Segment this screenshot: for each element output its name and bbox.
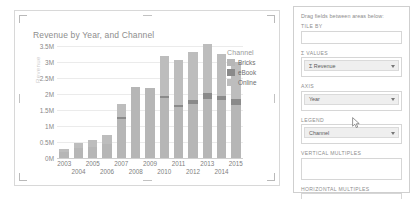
chart-legend: Channel BrickseBookOnline: [227, 49, 271, 89]
bar-segment-online[interactable]: [117, 104, 126, 117]
field-pill[interactable]: Year: [304, 94, 399, 105]
field-well-label: TILE BY: [301, 23, 402, 29]
chevron-down-icon[interactable]: [391, 132, 395, 135]
x-axis-tick-label: 2013: [200, 160, 214, 167]
resize-handle-top-right[interactable]: [267, 15, 275, 23]
bar-segment-bricks[interactable]: [217, 100, 226, 158]
x-axis-tick-labels: 2003200420052006200720082009201020112012…: [57, 159, 243, 181]
x-axis-tick-label: 2005: [86, 160, 100, 167]
bar-segment-bricks[interactable]: [188, 104, 197, 158]
y-axis-tick-label: 3.5M: [40, 43, 54, 50]
legend-item-label: eBook: [238, 69, 256, 76]
y-axis-tick-label: 2M: [45, 91, 54, 98]
bar-segment-bricks[interactable]: [160, 98, 169, 158]
bar-segment-online[interactable]: [217, 54, 226, 96]
bar-segment-bricks[interactable]: [74, 148, 83, 158]
bar-segment-online[interactable]: [88, 140, 97, 147]
x-axis-tick-label: 2012: [186, 168, 200, 175]
field-well-label: Σ VALUES: [301, 50, 402, 56]
y-axis-tick-label: 2.5M: [40, 75, 54, 82]
legend-swatch: [227, 69, 235, 76]
field-well-drop-zone[interactable]: Year: [301, 91, 402, 111]
bar-column[interactable]: [117, 104, 126, 158]
resize-handle-top[interactable]: [143, 15, 152, 16]
bar-segment-online[interactable]: [188, 52, 197, 101]
resize-handle-top-left[interactable]: [19, 15, 27, 23]
bar-column[interactable]: [160, 56, 169, 158]
legend-item-label: Online: [238, 79, 256, 86]
x-axis-tick-label: 2006: [100, 168, 114, 175]
field-well-label: VERTICAL MULTIPLES: [301, 150, 402, 156]
field-list-panel[interactable]: Drag fields between areas below: TILE BY…: [293, 6, 410, 193]
panel-hint-text: Drag fields between areas below:: [301, 13, 402, 19]
bar-column[interactable]: [174, 60, 183, 158]
bar-segment-bricks[interactable]: [102, 144, 111, 158]
bar-segment-bricks[interactable]: [131, 87, 140, 158]
chart-title: Revenue by Year, and Channel: [33, 30, 154, 40]
legend-title: Channel: [227, 49, 271, 56]
x-axis-tick-label: 2008: [129, 168, 143, 175]
bar-segment-bricks[interactable]: [145, 88, 154, 158]
y-axis-tick-label: 0M: [45, 155, 54, 162]
bar-column[interactable]: [217, 54, 226, 158]
bar-column[interactable]: [188, 52, 197, 158]
x-axis-tick-label: 2015: [229, 160, 243, 167]
x-axis-tick-label: 2007: [114, 160, 128, 167]
legend-item[interactable]: eBook: [227, 69, 271, 76]
resize-handle-bottom-left[interactable]: [19, 173, 27, 181]
resize-handle-right[interactable]: [274, 94, 275, 103]
bar-column[interactable]: [203, 44, 212, 158]
chevron-down-icon[interactable]: [391, 65, 395, 68]
x-axis-tick-label: 2011: [172, 160, 186, 167]
field-pill[interactable]: Channel: [304, 127, 399, 138]
bar-segment-online[interactable]: [160, 56, 169, 96]
legend-item[interactable]: Online: [227, 79, 271, 86]
resize-handle-bottom-right[interactable]: [267, 173, 275, 181]
field-well-drop-zone[interactable]: [301, 158, 402, 180]
bar-column[interactable]: [102, 135, 111, 158]
gridline: [57, 78, 243, 79]
legend-swatch: [227, 79, 235, 86]
legend-swatch: [227, 59, 235, 66]
bar-segment-online[interactable]: [102, 135, 111, 144]
legend-item-label: Bricks: [238, 59, 255, 66]
legend-item[interactable]: Bricks: [227, 59, 271, 66]
plot-area: [57, 46, 243, 158]
y-axis-tick-labels: 3.5M3M2.5M2M1.5M1M0.5M0M: [15, 46, 54, 158]
bar-segment-bricks[interactable]: [88, 147, 97, 158]
field-well-drop-zone[interactable]: Σ Revenue: [301, 57, 402, 77]
bar-column[interactable]: [131, 87, 140, 158]
y-axis-tick-label: 1M: [45, 123, 54, 130]
x-axis-tick-label: 2004: [71, 168, 85, 175]
field-well-drop-zone[interactable]: Channel: [301, 124, 402, 144]
field-wells: TILE BYΣ VALUESΣ RevenueAXISYearLEGENDCh…: [301, 23, 402, 199]
gridline: [57, 46, 243, 47]
bar-column[interactable]: [88, 140, 97, 158]
chevron-down-icon[interactable]: [391, 98, 395, 101]
field-well-drop-zone[interactable]: [301, 31, 402, 44]
y-axis-tick-label: 3M: [45, 59, 54, 66]
field-well-label: LEGEND: [301, 117, 402, 123]
x-axis-tick-label: 2010: [157, 168, 171, 175]
gridline: [57, 62, 243, 63]
y-axis-tick-label: 1.5M: [40, 107, 54, 114]
field-well-label: AXIS: [301, 83, 402, 89]
bar-column[interactable]: [74, 143, 83, 158]
bar-segment-online[interactable]: [174, 60, 183, 105]
field-well-label: HORIZONTAL MULTIPLES: [301, 186, 402, 192]
bar-segment-bricks[interactable]: [174, 107, 183, 158]
bar-segment-bricks[interactable]: [117, 119, 126, 158]
bar-column[interactable]: [145, 88, 154, 158]
legend-items: BrickseBookOnline: [227, 59, 271, 86]
field-pill[interactable]: Σ Revenue: [304, 60, 399, 71]
bar-segment-online[interactable]: [203, 44, 212, 93]
x-axis-tick-label: 2003: [57, 160, 71, 167]
x-axis-tick-label: 2014: [215, 168, 229, 175]
y-axis-tick-label: 0.5M: [40, 139, 54, 146]
chart-card[interactable]: Revenue by Year, and Channel Revenue 3.5…: [14, 10, 280, 186]
bar-segment-bricks[interactable]: [203, 99, 212, 158]
bar-segment-bricks[interactable]: [231, 105, 240, 158]
bar-column[interactable]: [59, 149, 68, 158]
x-axis-tick-label: 2009: [143, 160, 157, 167]
field-well-drop-zone[interactable]: [301, 193, 402, 199]
